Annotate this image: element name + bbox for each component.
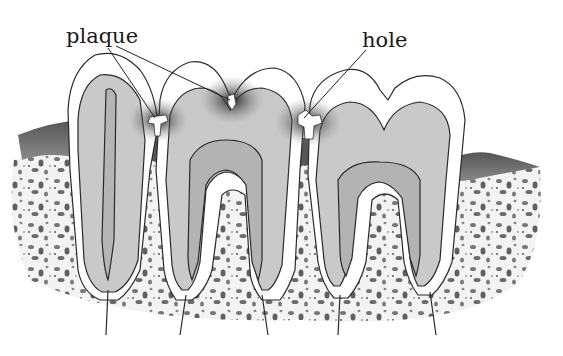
tooth-decay-diagram: plaque hole xyxy=(0,0,563,356)
label-hole: hole xyxy=(362,30,407,51)
teeth-illustration xyxy=(0,0,563,356)
label-plaque: plaque xyxy=(66,26,138,47)
